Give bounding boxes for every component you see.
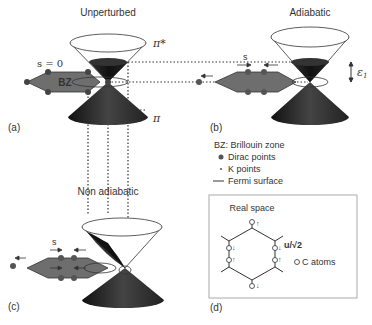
- small-dot-icon: [220, 168, 222, 170]
- legend-fermi: Fermi surface: [228, 176, 283, 186]
- fermi-level-disc: [291, 58, 329, 66]
- pi-label: π: [152, 112, 161, 125]
- epsilon-arrow: [349, 62, 353, 82]
- c-atom-legend-icon: [295, 260, 300, 265]
- legend: BZ: Brillouin zone Dirac points K points…: [213, 140, 285, 186]
- panel-a-label: (a): [8, 122, 20, 133]
- panel-d-title: Real space: [229, 203, 274, 213]
- panel-c: Non adiabatic s (c): [8, 186, 164, 312]
- panel-c-label: (c): [8, 301, 20, 312]
- svg-text:↑: ↑: [232, 256, 236, 263]
- panel-d-label: (d): [210, 302, 222, 313]
- legend-bz: BZ: Brillouin zone: [214, 140, 285, 150]
- svg-text:↑: ↑: [278, 256, 282, 263]
- bz-label: BZ: [58, 77, 71, 88]
- upper-cone-rim: [82, 218, 162, 236]
- panel-c-title: Non adiabatic: [77, 186, 138, 197]
- svg-text:↓: ↓: [256, 282, 260, 289]
- panel-d: Real space ↑ ↓ ↓ ↑ ↓ ↑ u/√2 C: [209, 195, 357, 313]
- c-atoms-label: C atoms: [302, 257, 336, 267]
- panel-b-label: (b): [210, 122, 222, 133]
- svg-text:↓: ↓: [232, 244, 236, 251]
- pi-star-label: π*: [152, 37, 166, 50]
- panel-b: Adiabatic s ε1 (b): [196, 7, 367, 133]
- epsilon-label: ε1: [357, 66, 367, 80]
- upper-cone-rim: [271, 27, 349, 47]
- s-zero-label: s = 0: [37, 58, 63, 69]
- legend-dirac: Dirac points: [228, 152, 276, 162]
- bz-hexagon-strained: [27, 258, 108, 278]
- panel-a: Unperturbed BZ s = 0 π* π (a): [8, 7, 166, 133]
- u-label: u/√2: [284, 240, 302, 250]
- s-label: s: [243, 52, 248, 62]
- svg-text:↑: ↑: [256, 220, 260, 227]
- panel-a-title: Unperturbed: [80, 7, 136, 18]
- diagram-canvas: Unperturbed BZ s = 0 π* π (a) Adiabatic: [0, 0, 372, 325]
- large-dot-icon: [219, 155, 224, 160]
- fermi-level-disc: [89, 58, 127, 66]
- upper-cone-rim: [70, 34, 146, 52]
- legend-k: K points: [228, 164, 261, 174]
- panel-b-title: Adiabatic: [289, 7, 330, 18]
- bz-hexagon-compressed: [215, 72, 296, 92]
- s-label: s: [52, 237, 57, 247]
- svg-text:↓: ↓: [278, 244, 282, 251]
